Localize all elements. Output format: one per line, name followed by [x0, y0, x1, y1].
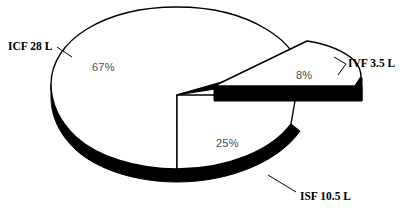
ivf-percent-label: 8%: [296, 69, 312, 81]
icf-category-label: ICF 28 L: [8, 40, 52, 52]
icf-percent-label: 67%: [92, 61, 115, 73]
pie-chart-graphic: [0, 0, 404, 215]
isf-slice-top: [177, 95, 296, 169]
isf-category-label: ISF 10.5 L: [300, 190, 351, 202]
isf-percent-label: 25%: [216, 137, 239, 149]
isf-leader-line: [268, 175, 296, 192]
ivf-slice-depth: [214, 86, 362, 101]
ivf-category-label: IVF 3.5 L: [348, 57, 395, 69]
pie-chart: 67% 25% 8% ICF 28 L ISF 10.5 L IVF 3.5 L: [0, 0, 404, 215]
